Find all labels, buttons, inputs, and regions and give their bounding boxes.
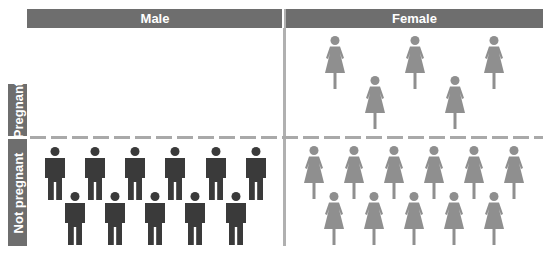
column-header-female: Female bbox=[286, 9, 543, 28]
male-not-pregnant-icon bbox=[223, 192, 249, 246]
female-not-pregnant-icon bbox=[321, 192, 347, 246]
row-header-not-pregnant-label: Not pregnant bbox=[10, 152, 25, 233]
row-header-not-pregnant: Not pregnant bbox=[8, 139, 27, 246]
female-pregnant-icon bbox=[362, 76, 388, 130]
male-not-pregnant-icon bbox=[62, 192, 88, 246]
female-not-pregnant-icon bbox=[401, 192, 427, 246]
row-divider-dashed bbox=[30, 136, 543, 139]
male-not-pregnant-icon bbox=[102, 192, 128, 246]
female-pregnant-icon bbox=[442, 76, 468, 130]
female-not-pregnant-icon bbox=[361, 192, 387, 246]
row-header-pregnant-label: Pregnant bbox=[10, 82, 25, 138]
male-not-pregnant-icon bbox=[182, 192, 208, 246]
column-divider bbox=[283, 9, 286, 246]
female-not-pregnant-icon bbox=[481, 192, 507, 246]
male-not-pregnant-icon bbox=[142, 192, 168, 246]
female-pregnant-icon bbox=[322, 36, 348, 90]
female-not-pregnant-icon bbox=[441, 192, 467, 246]
header-gap bbox=[282, 9, 284, 28]
row-header-pregnant: Pregnant bbox=[8, 84, 27, 136]
column-header-male: Male bbox=[27, 9, 283, 28]
female-pregnant-icon bbox=[481, 36, 507, 90]
female-pregnant-icon bbox=[402, 36, 428, 90]
